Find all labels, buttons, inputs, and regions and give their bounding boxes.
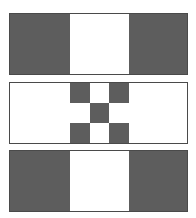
checker-cell [70, 103, 90, 123]
top-center-light-block [70, 14, 129, 74]
checker-cell [90, 83, 110, 103]
checker-cell [90, 123, 110, 143]
bottom-band [9, 150, 188, 212]
checker-cell [109, 103, 129, 123]
middle-left-light-block [10, 83, 70, 143]
middle-band [9, 82, 188, 144]
checker-cell [90, 103, 110, 123]
checker-cell [109, 83, 129, 103]
bottom-right-dark-block [129, 151, 187, 211]
middle-right-light-block [129, 83, 187, 143]
bottom-left-dark-block [10, 151, 70, 211]
checker-cell [70, 83, 90, 103]
checker-cell [109, 123, 129, 143]
checker-cell [70, 123, 90, 143]
bottom-center-light-block [70, 151, 129, 211]
top-left-dark-block [10, 14, 70, 74]
top-right-dark-block [129, 14, 187, 74]
top-band [9, 13, 188, 75]
checkerboard [70, 83, 129, 143]
